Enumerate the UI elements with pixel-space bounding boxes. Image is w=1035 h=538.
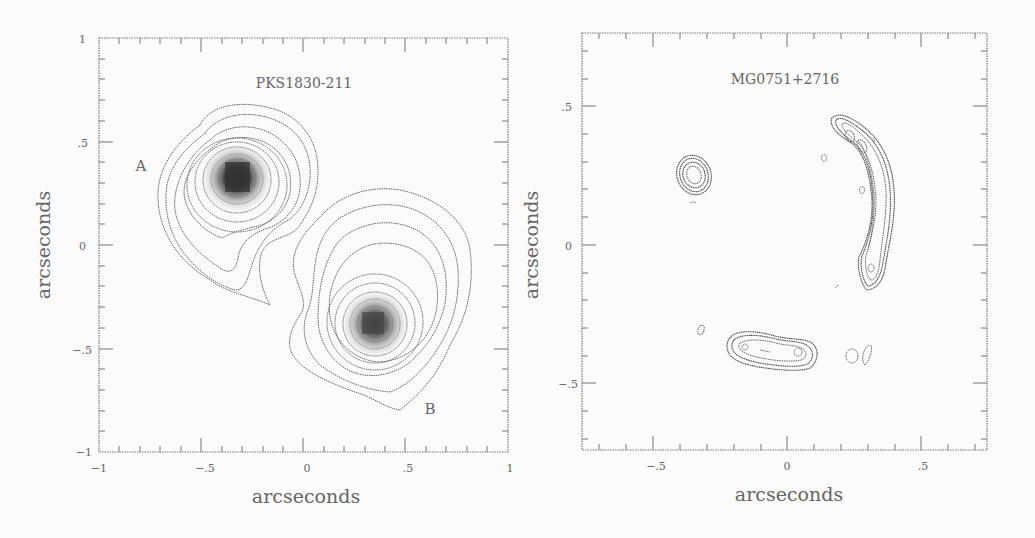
core-a-pixels xyxy=(225,162,250,192)
y-tick-label: 1 xyxy=(79,33,86,46)
component-label-a: A xyxy=(135,157,147,175)
y-ticks xyxy=(582,51,987,439)
x-tick-label: −1 xyxy=(91,462,107,475)
y-tick-label: .5 xyxy=(562,101,573,114)
x-ticks xyxy=(119,38,487,452)
y-tick-label: .5 xyxy=(78,137,89,150)
chart-title: PKS1830-211 xyxy=(256,75,353,91)
x-tick-label: 0 xyxy=(304,462,311,475)
y-tick-label: 0 xyxy=(79,240,86,253)
plot-frame xyxy=(582,33,987,450)
x-tick-label: .5 xyxy=(918,460,929,473)
x-tick-label: 1 xyxy=(507,462,514,475)
contours-compact-west xyxy=(671,150,717,203)
chart-title: MG0751+2716 xyxy=(731,71,840,87)
y-axis-label: arcseconds xyxy=(32,191,54,299)
x-ticks xyxy=(599,33,975,450)
y-tick-label: −.5 xyxy=(558,378,578,391)
x-tick-label: 0 xyxy=(784,460,791,473)
chart-pks1830-211: 1 .5 0 −.5 −1 −1 −.5 0 .5 1 arcseconds a… xyxy=(0,0,520,538)
component-label-b: B xyxy=(424,400,435,418)
y-axis-label: arcseconds xyxy=(520,191,542,299)
y-tick-label: 0 xyxy=(565,240,572,253)
x-axis-label: arcseconds xyxy=(252,485,360,507)
y-tick-label: −.5 xyxy=(72,344,92,357)
x-axis-label: arcseconds xyxy=(735,483,843,505)
contours-arc-east xyxy=(822,115,895,290)
y-tick-label: −1 xyxy=(76,446,92,459)
x-tick-label: −.5 xyxy=(195,462,215,475)
x-tick-label: .5 xyxy=(403,462,414,475)
contours-arc-south xyxy=(696,324,817,370)
contours-faint-knots xyxy=(846,345,872,365)
chart-mg0751-2716: .5 0 −.5 −.5 0 .5 arcseconds arcseconds … xyxy=(520,0,1035,538)
plot-frame xyxy=(99,38,508,452)
x-tick-label: −.5 xyxy=(646,460,666,473)
y-ticks xyxy=(99,59,508,431)
core-b-pixels xyxy=(362,312,384,334)
